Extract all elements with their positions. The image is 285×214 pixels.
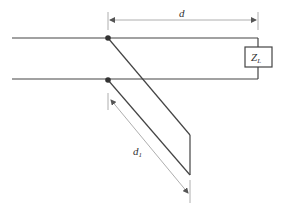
main-line	[12, 38, 258, 79]
dimension-d: d	[108, 7, 258, 30]
load-impedance: ZL	[245, 47, 272, 67]
junction-node-bottom	[105, 77, 111, 83]
stub-conductor-outer	[108, 38, 190, 135]
junction-node-top	[105, 35, 111, 41]
d1-label: d1	[133, 145, 142, 159]
stub-conductor-inner	[108, 80, 190, 175]
short-stub	[108, 38, 190, 175]
dimension-d1: d1	[108, 93, 190, 203]
d-label: d	[179, 7, 185, 19]
stub-diagram: ZL d d1	[0, 0, 285, 214]
